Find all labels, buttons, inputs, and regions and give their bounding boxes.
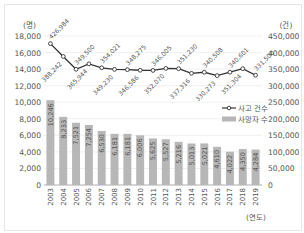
line-marker (228, 70, 232, 74)
line-value-label: 340,508 (201, 46, 224, 69)
line-marker (61, 55, 65, 59)
x-tick-label: 2018 (239, 188, 247, 206)
bar-value-label: 6,006 (136, 138, 144, 157)
legend-label: 사고 건수 (238, 104, 268, 113)
x-tick-label: 2010 (137, 188, 145, 206)
line-value-label: 426,984 (47, 17, 70, 40)
line-marker (87, 62, 91, 66)
bar-value-label: 5,013 (188, 147, 196, 166)
x-tick-label: 2008 (111, 188, 119, 206)
line-marker (100, 66, 104, 70)
bar-value-label: 5,527 (162, 142, 170, 161)
line-value-label: 349,500 (73, 43, 96, 66)
bar-value-label: 5,625 (149, 141, 157, 160)
x-axis-unit: (연도) (246, 213, 266, 222)
left-tick-label: 6,000 (19, 131, 41, 140)
line-marker (138, 68, 142, 72)
x-tick-label: 2004 (60, 187, 68, 205)
left-tick-label: 10,000 (14, 98, 41, 107)
line-value-label: 354,021 (98, 41, 121, 64)
bar-value-label: 5,021 (201, 146, 209, 165)
x-tick-label: 2019 (252, 188, 260, 206)
left-tick-label: 4,000 (19, 148, 41, 157)
line-marker (125, 68, 129, 72)
line-value-label: 351,230 (175, 42, 198, 65)
line-value-label: 351,304 (219, 72, 242, 95)
right-tick-label: 300,000 (268, 82, 300, 91)
bar-value-label: 5,216 (175, 145, 183, 164)
bar-value-label: 6,530 (98, 134, 106, 153)
x-tick-label: 2003 (47, 188, 55, 206)
legend-label: 사망자 수 (238, 115, 268, 124)
bar-value-label: 6,181 (111, 137, 119, 156)
right-tick-label: 50,000 (268, 164, 295, 173)
bar-value-label: 6,181 (124, 137, 132, 156)
right-tick-label: 150,000 (268, 131, 300, 140)
bar-value-label: 8,233 (60, 120, 68, 139)
left-tick-label: 8,000 (19, 115, 41, 124)
right-axis: 050,000100,000150,000200,000250,000300,0… (268, 20, 300, 190)
line-marker (164, 67, 168, 71)
line-value-label: 346,005 (150, 44, 173, 67)
bar-series-deaths: 10,2468,2337,5217,2546,5306,1816,1816,00… (46, 100, 259, 185)
line-value-label: 337,316 (168, 77, 191, 100)
bar-value-label: 7,521 (72, 126, 80, 145)
line-marker (215, 74, 219, 78)
bar-value-label: 4,022 (226, 155, 234, 174)
line-value-label: 352,070 (142, 72, 165, 95)
line-value-label: 330,273 (194, 79, 217, 102)
x-tick-label: 2005 (73, 188, 81, 206)
x-axis: 2003200420052006200720082009201020112012… (47, 187, 266, 222)
right-tick-label: 0 (268, 181, 273, 190)
line-marker (113, 67, 117, 71)
bar-value-label: 4,284 (252, 153, 260, 172)
left-axis-unit: (명) (23, 20, 36, 30)
legend-line-icon (227, 106, 231, 110)
line-value-label: 388,242 (40, 60, 63, 83)
line-marker (74, 67, 78, 71)
line-value-label: 348,275 (124, 43, 147, 66)
x-tick-label: 2011 (150, 188, 158, 206)
x-tick-label: 2015 (201, 188, 209, 206)
x-tick-label: 2012 (162, 188, 170, 206)
line-marker (151, 69, 155, 73)
bar-value-label: 4,350 (239, 152, 247, 171)
bar-value-label: 7,254 (85, 128, 93, 147)
line-series-accidents: 426,984388,242349,500365,944354,021349,2… (40, 17, 276, 102)
combo-chart: 02,0004,0006,0008,00010,00012,00014,0001… (0, 0, 304, 233)
left-axis: 02,0004,0006,0008,00010,00012,00014,0001… (14, 20, 41, 190)
x-tick-label: 2009 (124, 188, 132, 206)
left-tick-label: 2,000 (19, 164, 41, 173)
bar-value-label: 4,610 (213, 150, 221, 169)
left-tick-label: 0 (36, 181, 41, 190)
x-tick-label: 2014 (188, 187, 196, 205)
right-tick-label: 450,000 (268, 32, 300, 41)
legend-bar-icon (222, 117, 236, 122)
left-tick-label: 12,000 (14, 82, 41, 91)
bar-value-label: 10,246 (47, 103, 55, 126)
x-tick-label: 2013 (175, 188, 183, 206)
line-value-label: 349,230 (91, 73, 114, 96)
right-tick-label: 350,000 (268, 65, 300, 74)
line-marker (177, 67, 181, 71)
line-marker (254, 73, 258, 77)
line-marker (202, 70, 206, 74)
right-tick-label: 250,000 (268, 98, 300, 107)
left-tick-label: 16,000 (14, 49, 41, 58)
line-marker (49, 42, 53, 46)
line-marker (241, 67, 245, 71)
x-tick-label: 2017 (226, 188, 234, 206)
legend: 사고 건수사망자 수 (222, 104, 268, 124)
x-tick-label: 2016 (214, 187, 222, 205)
x-tick-label: 2006 (85, 187, 93, 205)
left-tick-label: 18,000 (14, 32, 41, 41)
line-value-label: 340,601 (227, 46, 250, 69)
line-marker (190, 71, 194, 75)
right-tick-label: 200,000 (268, 115, 300, 124)
right-tick-label: 100,000 (268, 148, 300, 157)
left-tick-label: 14,000 (14, 65, 41, 74)
right-axis-unit: (건) (280, 20, 293, 30)
x-tick-label: 2007 (98, 188, 106, 206)
